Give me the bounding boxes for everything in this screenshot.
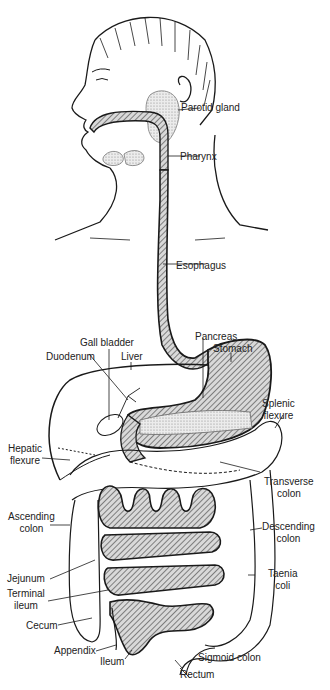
label-hepatic-flexure-line2: flexure <box>8 455 42 467</box>
label-appendix: Appendix <box>54 645 96 657</box>
label-splenic-flexure-line1: Splenic <box>262 398 295 410</box>
label-descending-colon: Descending colon <box>262 521 315 545</box>
label-hepatic-flexure-line1: Hepatic <box>8 443 42 455</box>
label-terminal-ileum-line2: ileum <box>7 600 45 612</box>
label-taenia-coli-line2: coli <box>268 580 297 592</box>
label-terminal-ileum: Terminal ileum <box>7 588 45 612</box>
label-hepatic-flexure: Hepatic flexure <box>8 443 42 467</box>
label-transverse-colon-line1: Transverse <box>264 476 314 488</box>
label-pancreas: Pancreas <box>195 331 237 343</box>
label-jejunum: Jejunum <box>7 573 45 585</box>
label-esophagus: Esophagus <box>176 260 226 272</box>
label-stomach: Stomach <box>213 343 252 355</box>
label-pharynx: Pharynx <box>180 151 217 163</box>
label-gall-bladder: Gall bladder <box>80 337 134 349</box>
label-liver: Liver <box>121 351 143 363</box>
label-cecum: Cecum <box>26 620 58 632</box>
label-sigmoid-colon: Sigmoid colon <box>198 652 261 664</box>
label-ascending-colon-line2: colon <box>8 523 55 535</box>
label-ascending-colon-line1: Ascending <box>8 511 55 523</box>
label-terminal-ileum-line1: Terminal <box>7 588 45 600</box>
label-descending-colon-line1: Descending <box>262 521 315 533</box>
label-duodenum: Duodenum <box>46 351 95 363</box>
label-descending-colon-line2: colon <box>262 533 315 545</box>
label-transverse-colon: Transverse colon <box>264 476 314 500</box>
label-rectum: Rectum <box>180 669 214 681</box>
small-intestine <box>98 486 224 655</box>
label-transverse-colon-line2: colon <box>264 488 314 500</box>
label-splenic-flexure-line2: flexure <box>262 410 295 422</box>
label-parotid-gland: Parotid gland <box>181 102 240 114</box>
label-ascending-colon: Ascending colon <box>8 511 55 535</box>
label-splenic-flexure: Splenic flexure <box>262 398 295 422</box>
label-taenia-coli: Taenia coli <box>268 568 297 592</box>
label-ileum: Ileum <box>100 656 124 668</box>
label-taenia-coli-line1: Taenia <box>268 568 297 580</box>
